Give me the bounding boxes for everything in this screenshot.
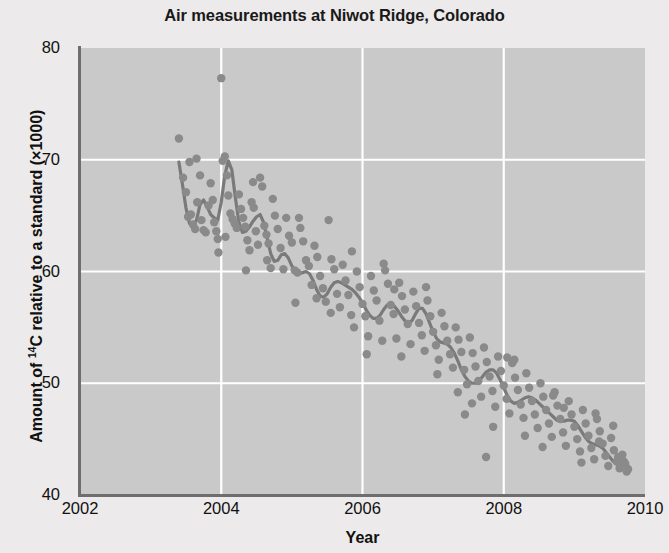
data-point (235, 190, 243, 198)
data-point (601, 452, 609, 460)
data-point (347, 311, 355, 319)
data-point (531, 410, 539, 418)
data-point (573, 435, 581, 443)
data-point (474, 377, 482, 385)
data-point (361, 312, 369, 320)
data-point (389, 310, 397, 318)
data-point (355, 283, 363, 291)
data-point (576, 447, 584, 455)
data-point (549, 391, 557, 399)
data-point (299, 237, 307, 245)
data-point (241, 223, 249, 231)
y-axis-title-suffix: C relative to a standard (×1000) (28, 110, 45, 347)
data-point (591, 409, 599, 417)
data-point (536, 379, 544, 387)
data-point (517, 400, 525, 408)
data-point (466, 333, 474, 341)
data-point (468, 349, 476, 357)
data-point (584, 432, 592, 440)
data-point (313, 253, 321, 261)
data-point (250, 204, 258, 212)
data-point (433, 370, 441, 378)
data-point (505, 409, 513, 417)
data-point (212, 227, 220, 235)
scatter-points (175, 74, 633, 476)
data-point (418, 331, 426, 339)
data-point (491, 403, 499, 411)
data-point (420, 347, 428, 355)
data-point (258, 182, 266, 190)
data-point (327, 255, 335, 263)
data-point (221, 152, 229, 160)
plot-area (80, 48, 645, 495)
data-point (460, 366, 468, 374)
data-point (254, 240, 262, 248)
data-point (348, 247, 356, 255)
data-point (565, 397, 573, 405)
data-point (604, 462, 612, 470)
data-point (319, 284, 327, 292)
data-point (483, 358, 491, 366)
data-point (500, 381, 508, 389)
data-point (312, 294, 320, 302)
data-point (282, 214, 290, 222)
data-point (197, 216, 205, 224)
data-point (494, 352, 502, 360)
data-point (271, 211, 279, 219)
data-point (224, 191, 232, 199)
data-point (187, 210, 195, 218)
data-point (269, 195, 277, 203)
data-point (260, 221, 268, 229)
data-point (305, 262, 313, 270)
data-point (256, 173, 264, 181)
data-point (577, 458, 585, 466)
data-point (590, 455, 598, 463)
data-point (579, 406, 587, 414)
data-point (415, 319, 423, 327)
data-point (206, 179, 214, 187)
data-point (489, 423, 497, 431)
data-point (279, 265, 287, 273)
data-point (560, 404, 568, 412)
data-point (514, 386, 522, 394)
data-point (307, 281, 315, 289)
data-point (333, 290, 341, 298)
data-point (295, 214, 303, 222)
data-point (364, 332, 372, 340)
data-point (379, 259, 387, 267)
data-point (502, 395, 510, 403)
data-point (497, 367, 505, 375)
data-point (193, 198, 201, 206)
x-tick-label: 2004 (176, 500, 266, 517)
x-tick-label: 2002 (35, 500, 125, 517)
data-point (330, 265, 338, 273)
data-point (452, 323, 460, 331)
data-point (596, 427, 604, 435)
data-point (245, 246, 253, 254)
data-point (214, 235, 222, 243)
y-axis-title-prefix: Amount of (28, 358, 45, 442)
data-point (214, 248, 222, 256)
data-point (252, 227, 260, 235)
data-point (432, 341, 440, 349)
data-point (398, 292, 406, 300)
data-point (372, 296, 380, 304)
data-point (276, 244, 284, 252)
data-point (392, 334, 400, 342)
data-point (511, 373, 519, 381)
data-point (423, 296, 431, 304)
x-axis-title: Year (80, 529, 645, 547)
chart-title: Air measurements at Niwot Ridge, Colorad… (0, 6, 669, 25)
x-tick-label: 2008 (459, 500, 549, 517)
data-point (461, 410, 469, 418)
data-point (538, 443, 546, 451)
data-point (192, 154, 200, 162)
data-point (401, 305, 409, 313)
data-point (344, 291, 352, 299)
data-point (210, 218, 218, 226)
data-point (233, 224, 241, 232)
x-axis-spine (78, 494, 645, 497)
data-point (581, 419, 589, 427)
data-point (327, 309, 335, 317)
data-point (457, 348, 465, 356)
